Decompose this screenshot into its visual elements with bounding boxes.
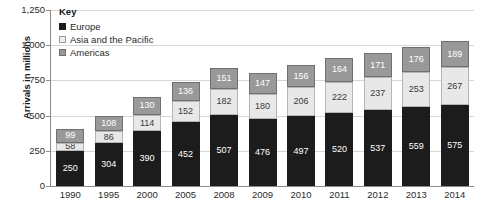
bar-group[interactable]: 537237171: [364, 53, 392, 186]
legend-item[interactable]: Americas: [59, 47, 189, 59]
x-tick-label: 2012: [359, 190, 397, 200]
bar-value-label: 130: [140, 101, 155, 110]
bar-segment-americas[interactable]: 136: [172, 82, 200, 101]
bar-segment-europe[interactable]: 559: [402, 107, 430, 186]
bar-segment-europe[interactable]: 476: [249, 119, 277, 186]
bar-segment-asia-pacific[interactable]: 58: [56, 143, 84, 151]
bar-segment-americas[interactable]: 130: [133, 97, 161, 115]
y-tick-label: 250: [11, 146, 45, 156]
stacked-bar-chart: Arrivals in millions 1,2501,000750500250…: [0, 0, 481, 214]
bar-segment-europe[interactable]: 304: [95, 143, 123, 186]
bar-segment-asia-pacific[interactable]: 86: [95, 131, 123, 143]
bar-segment-americas[interactable]: 189: [441, 41, 469, 68]
bar-segment-asia-pacific[interactable]: 206: [287, 87, 315, 116]
y-tick-mark: [46, 186, 51, 187]
bar-value-label: 152: [178, 107, 193, 116]
bar-segment-asia-pacific[interactable]: 180: [249, 94, 277, 119]
x-tick-label: 2014: [436, 190, 474, 200]
bar-segment-americas[interactable]: 147: [249, 73, 277, 94]
bar-value-label: 136: [178, 87, 193, 96]
bar-group[interactable]: 520222164: [325, 58, 353, 186]
x-tick-label: 2008: [205, 190, 243, 200]
bar-segment-asia-pacific[interactable]: 182: [210, 89, 238, 115]
bar-segment-asia-pacific[interactable]: 267: [441, 67, 469, 105]
bar-segment-europe[interactable]: 390: [133, 131, 161, 186]
bar-value-label: 180: [255, 102, 270, 111]
bar-segment-europe[interactable]: 575: [441, 105, 469, 186]
bar-value-label: 520: [332, 145, 347, 154]
bar-segment-europe[interactable]: 497: [287, 116, 315, 186]
bar-segment-asia-pacific[interactable]: 114: [133, 115, 161, 131]
x-tick-label: 2009: [243, 190, 281, 200]
legend-item[interactable]: Asia and the Pacific: [59, 34, 189, 46]
bar-value-label: 476: [255, 148, 270, 157]
bar-group[interactable]: 2505899: [56, 129, 84, 186]
bar-value-label: 253: [409, 85, 424, 94]
bar-segment-americas[interactable]: 156: [287, 65, 315, 87]
bar-value-label: 497: [293, 147, 308, 156]
bar-value-label: 507: [217, 146, 232, 155]
bar-value-label: 575: [447, 141, 462, 150]
bar-group[interactable]: 30486108: [95, 116, 123, 186]
americas-swatch-icon: [59, 49, 66, 56]
bar-value-label: 151: [217, 74, 232, 83]
bar-segment-europe[interactable]: 250: [56, 151, 84, 186]
bar-value-label: 189: [447, 50, 462, 59]
bar-group[interactable]: 476180147: [249, 73, 277, 186]
y-tick-mark: [46, 151, 51, 152]
x-axis-tick-labels: 1990199520002005200820092010201120122013…: [51, 190, 474, 210]
bar-value-label: 537: [370, 144, 385, 153]
x-tick-label: 2011: [320, 190, 358, 200]
bar-group[interactable]: 507182151: [210, 68, 238, 186]
y-tick-mark: [46, 10, 51, 11]
asia-swatch-icon: [59, 36, 66, 43]
bar-value-label: 164: [332, 65, 347, 74]
y-tick-label: 0: [11, 181, 45, 191]
bar-group[interactable]: 452152136: [172, 82, 200, 186]
bar-segment-americas[interactable]: 176: [402, 47, 430, 72]
bar-value-label: 156: [293, 72, 308, 81]
x-axis-line: [50, 186, 474, 187]
y-tick-mark: [46, 80, 51, 81]
bar-value-label: 58: [65, 143, 75, 151]
y-tick-label: 500: [11, 111, 45, 121]
bar-segment-asia-pacific[interactable]: 253: [402, 72, 430, 108]
bar-segment-europe[interactable]: 520: [325, 113, 353, 186]
bar-value-label: 114: [140, 119, 154, 128]
bar-value-label: 86: [104, 133, 114, 142]
x-tick-label: 1995: [89, 190, 127, 200]
bar-segment-asia-pacific[interactable]: 222: [325, 82, 353, 113]
legend-item[interactable]: Europe: [59, 21, 189, 33]
bar-segment-americas[interactable]: 151: [210, 68, 238, 89]
bar-segment-americas[interactable]: 164: [325, 58, 353, 81]
bar-value-label: 390: [140, 154, 155, 163]
bar-segment-asia-pacific[interactable]: 152: [172, 101, 200, 122]
bar-value-label: 304: [101, 160, 116, 169]
x-tick-label: 2005: [166, 190, 204, 200]
bar-value-label: 171: [370, 61, 385, 70]
bar-value-label: 206: [293, 97, 308, 106]
bar-group[interactable]: 497206156: [287, 65, 315, 186]
legend-title: Key: [59, 7, 189, 17]
x-tick-label: 2000: [128, 190, 166, 200]
bar-segment-americas[interactable]: 171: [364, 53, 392, 77]
bar-group[interactable]: 575267189: [441, 41, 469, 186]
bar-value-label: 250: [63, 164, 78, 173]
bar-segment-americas[interactable]: 99: [56, 129, 84, 143]
bar-segment-europe[interactable]: 452: [172, 122, 200, 186]
bar-value-label: 176: [409, 55, 424, 64]
bar-segment-asia-pacific[interactable]: 237: [364, 77, 392, 110]
legend-item-label: Asia and the Pacific: [70, 35, 153, 45]
bar-segment-europe[interactable]: 507: [210, 115, 238, 186]
bar-value-label: 559: [409, 142, 424, 151]
bar-segment-americas[interactable]: 108: [95, 116, 123, 131]
y-tick-label: 1,000: [11, 40, 45, 50]
bar-value-label: 237: [370, 89, 385, 98]
bar-segment-europe[interactable]: 537: [364, 110, 392, 186]
x-tick-label: 2010: [282, 190, 320, 200]
bar-value-label: 267: [447, 82, 462, 91]
bar-group[interactable]: 559253176: [402, 47, 430, 186]
bar-value-label: 147: [255, 79, 270, 88]
x-tick-label: 1990: [51, 190, 89, 200]
bar-group[interactable]: 390114130: [133, 97, 161, 186]
